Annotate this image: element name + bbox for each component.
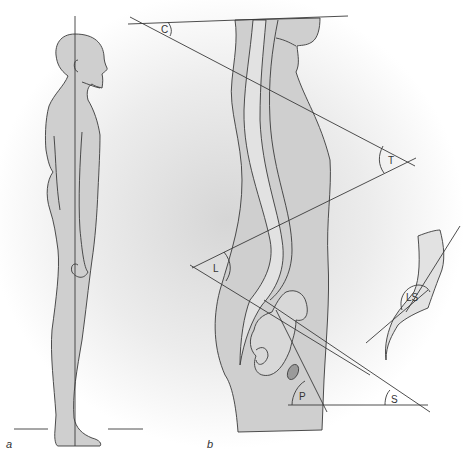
panel-label-b: b xyxy=(207,438,213,450)
angle-label-ls: LS xyxy=(406,292,419,303)
panel-label-a: a xyxy=(6,438,12,450)
angle-label-c: C xyxy=(161,24,168,35)
spine-posture-diagram: a C T L P S b LS xyxy=(0,0,474,458)
angle-label-t: T xyxy=(388,155,394,166)
angle-label-p: P xyxy=(299,391,306,402)
angle-label-s: S xyxy=(391,394,398,405)
angle-label-l: L xyxy=(213,263,219,274)
